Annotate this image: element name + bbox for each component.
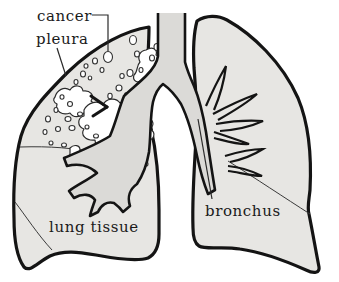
label-cancer: cancer xyxy=(37,7,92,25)
label-pleura: pleura xyxy=(36,30,89,48)
lung-cancer-diagram: cancer pleura lung tissue bronchus xyxy=(0,0,339,282)
cancer-target-bubble xyxy=(104,52,113,63)
label-lung-tissue: lung tissue xyxy=(49,218,139,236)
diagram-svg: cancer pleura lung tissue bronchus xyxy=(0,0,339,282)
right-lung-shape xyxy=(193,16,319,272)
pleura-leader-line xyxy=(57,48,66,76)
label-bronchus: bronchus xyxy=(205,202,281,220)
